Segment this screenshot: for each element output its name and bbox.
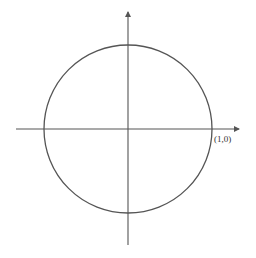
unit-circle-diagram: (1,0) [0, 0, 256, 258]
point-label: (1,0) [214, 134, 231, 144]
